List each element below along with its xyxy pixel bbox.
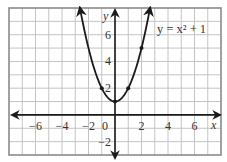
x-tick-label: −2 (82, 119, 95, 133)
x-tick-label: −6 (29, 119, 42, 133)
x-tick-label: 0 (102, 119, 108, 133)
data-point (100, 86, 104, 90)
y-axis-label: y (102, 9, 109, 23)
x-tick-label: 4 (165, 119, 171, 133)
data-point (140, 46, 144, 50)
equation-label: y = x² + 1 (157, 22, 206, 36)
parabola-graph: −6−4−20246−2246 x y y = x² + 1 (0, 0, 227, 162)
y-tick-label: 6 (105, 28, 111, 42)
data-point (126, 86, 130, 90)
x-tick-label: 2 (139, 119, 145, 133)
y-tick-label: −2 (98, 135, 111, 149)
data-point (113, 100, 117, 104)
y-tick-label: 2 (105, 81, 111, 95)
x-axis-label: x (210, 118, 217, 132)
x-tick-label: −4 (56, 119, 69, 133)
y-tick-label: 4 (105, 54, 111, 68)
x-tick-label: 6 (192, 119, 198, 133)
